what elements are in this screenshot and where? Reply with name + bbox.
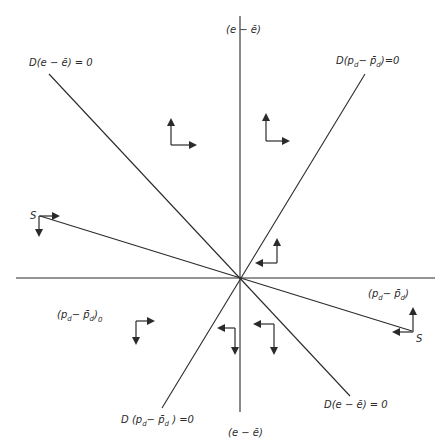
saddle-label-left: S bbox=[30, 210, 37, 221]
direction-arrows-right-down bbox=[35, 212, 60, 237]
direction-arrows-left-down bbox=[253, 320, 278, 355]
initial-point-label: (pd− p̄d)0 bbox=[57, 309, 103, 324]
phase-diagram: (e − ē) (e − ē) (pd− p̄d) D(e − ē) = 0 D… bbox=[0, 0, 445, 447]
dp-zero-label-bottom: D (pd− p̄d ) =0 bbox=[121, 414, 194, 428]
de-zero-label-top: D(e − ē) = 0 bbox=[29, 57, 93, 68]
horizontal-axis-label: (pd− p̄d) bbox=[368, 288, 409, 302]
vertical-axis-bottom-label: (e − ē) bbox=[228, 427, 263, 438]
de-zero-line bbox=[49, 74, 350, 396]
vertical-axis-top-label: (e − ē) bbox=[226, 24, 261, 35]
direction-arrows-up-right bbox=[167, 118, 197, 149]
direction-arrows-right-down bbox=[132, 317, 155, 345]
direction-arrows-up-left bbox=[255, 238, 281, 267]
saddle-label-right: S bbox=[416, 333, 423, 344]
dp-zero-line bbox=[162, 74, 365, 408]
direction-arrows-up-right bbox=[262, 113, 290, 145]
direction-arrows-up-left bbox=[392, 307, 417, 336]
de-zero-label-bottom: D(e − ē) = 0 bbox=[324, 399, 388, 410]
direction-arrows-left-down bbox=[217, 324, 239, 355]
dp-zero-label-top: D(pd− p̄d)=0 bbox=[336, 55, 399, 69]
